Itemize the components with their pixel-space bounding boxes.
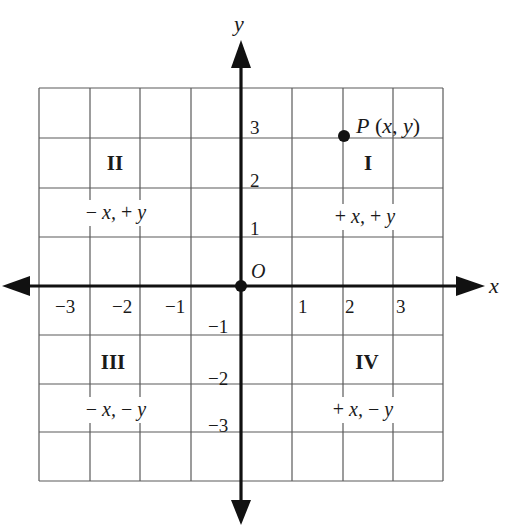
x-axis-right-arrow-icon xyxy=(456,276,485,296)
quadrant-ii-signs: − x, + y xyxy=(86,201,146,224)
y-tick-label: 2 xyxy=(250,170,260,191)
point-p-dot xyxy=(338,130,350,142)
y-tick-label: −1 xyxy=(208,316,228,337)
quadrant-iv-label: IV xyxy=(355,350,378,374)
y-tick-label: −2 xyxy=(208,368,228,389)
x-axis-label: x xyxy=(488,273,499,298)
y-tick-label: 1 xyxy=(250,218,260,239)
y-tick-label: 3 xyxy=(250,117,260,138)
y-axis-up-arrow-icon xyxy=(231,40,251,68)
quadrant-i-signs: + x, + y xyxy=(335,205,395,228)
origin-label: O xyxy=(251,260,265,282)
quadrant-iii-label: III xyxy=(101,350,126,374)
origin-dot xyxy=(235,280,247,292)
y-axis-down-arrow-icon xyxy=(231,500,251,525)
quadrant-iii-signs: − x, − y xyxy=(86,398,146,421)
x-tick-label: −3 xyxy=(55,296,75,317)
x-tick-label: 2 xyxy=(345,296,355,317)
x-axis-left-arrow-icon xyxy=(2,276,30,296)
x-tick-label: 1 xyxy=(298,296,308,317)
y-axis-label: y xyxy=(232,11,244,36)
coordinate-plane: x y O −3 −2 −1 1 2 3 3 2 1 −1 −2 −3 I II… xyxy=(0,0,518,525)
x-tick-label: −2 xyxy=(112,296,132,317)
point-p-label: P (x, y) xyxy=(355,113,420,138)
x-tick-label: −1 xyxy=(165,296,185,317)
quadrant-i-label: I xyxy=(364,151,372,175)
quadrant-iv-signs: + x, − y xyxy=(333,398,393,421)
y-tick-label: −3 xyxy=(208,415,228,436)
quadrant-ii-label: II xyxy=(107,151,123,175)
x-tick-label: 3 xyxy=(396,296,406,317)
